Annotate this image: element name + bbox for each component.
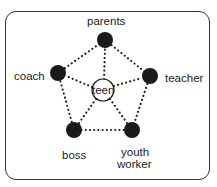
label-coach: coach [14,70,45,82]
edge-teacher-youth-worker [132,76,150,130]
edge-teen-coach [66,76,92,87]
node-boss [66,122,82,138]
label-youth-line1: youth [121,146,149,158]
edge-teen-teacher [114,78,142,86]
edge-coach-parents [58,40,105,73]
edge-boss-coach [58,73,74,130]
label-teen: teen [92,84,114,96]
edge-teen-youth-worker [110,99,127,123]
label-parents: parents [87,15,125,27]
node-teacher [142,68,158,84]
node-youth-worker [124,122,140,138]
node-parents [97,32,113,48]
label-youth-line2: worker [117,158,152,170]
edge-teen-parents [104,48,105,79]
edge-teen-boss [79,99,96,123]
node-coach [50,65,66,81]
label-teacher: teacher [165,72,203,84]
edge-parents-teacher [105,40,150,76]
label-boss: boss [62,149,86,161]
